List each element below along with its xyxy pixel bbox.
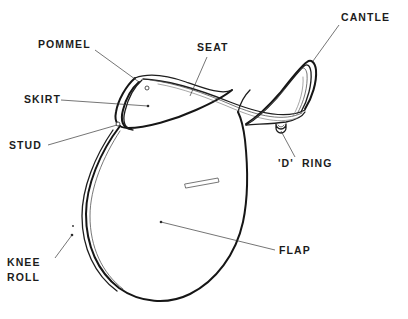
leader-pommel xyxy=(95,50,139,82)
flap-outline xyxy=(86,112,247,301)
leader-lines xyxy=(48,25,339,258)
seat-outline xyxy=(143,79,305,115)
leader-knee-roll xyxy=(55,235,72,258)
leader-stud xyxy=(48,125,117,145)
label-cantle: CANTLE xyxy=(341,11,390,23)
saddle-diagram: POMMEL SEAT CANTLE SKIRT STUD 'D' RING F… xyxy=(0,0,408,319)
seat-seam-lower xyxy=(158,84,299,121)
stud-upper xyxy=(145,86,149,90)
label-skirt: SKIRT xyxy=(24,93,61,105)
label-pommel: POMMEL xyxy=(38,38,91,50)
leader-cantle xyxy=(313,25,339,61)
skirt-outline xyxy=(116,78,233,128)
billet-strap xyxy=(185,178,219,188)
saddle-artwork xyxy=(71,61,316,301)
label-knee-roll-line1: KNEE xyxy=(7,256,41,268)
label-flap: FLAP xyxy=(279,244,311,256)
seat-seam-upper xyxy=(150,80,302,117)
knee-roll-tick-upper xyxy=(72,225,74,227)
d-ring-inner xyxy=(278,125,284,127)
leader-flap xyxy=(161,222,275,250)
label-stud: STUD xyxy=(9,139,42,151)
leader-skirt xyxy=(61,100,148,106)
label-knee-roll-line2: ROLL xyxy=(7,271,40,283)
part-labels: POMMEL SEAT CANTLE SKIRT STUD 'D' RING F… xyxy=(7,11,390,283)
label-d-ring: 'D' RING xyxy=(278,157,333,169)
skirt-top-edge xyxy=(135,75,232,92)
leader-d-ring xyxy=(281,131,295,157)
saddle-illustration: POMMEL SEAT CANTLE SKIRT STUD 'D' RING F… xyxy=(0,0,408,319)
label-seat: SEAT xyxy=(197,41,229,53)
